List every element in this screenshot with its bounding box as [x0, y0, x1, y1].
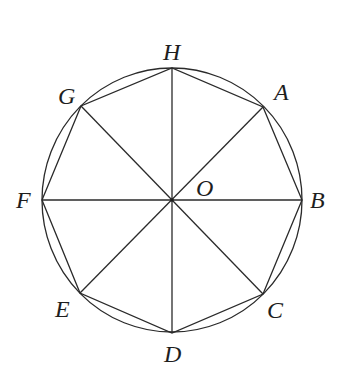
vertex-labels: ABCDEFGH — [15, 39, 325, 367]
center-label-o: O — [196, 175, 213, 201]
vertex-label-c: C — [267, 297, 284, 323]
vertex-label-b: B — [310, 187, 325, 213]
vertex-label-f: F — [15, 187, 31, 213]
inscribed-octagon-diagram: ABCDEFGH O — [0, 0, 350, 388]
vertex-label-d: D — [163, 341, 181, 367]
vertex-label-g: G — [58, 83, 75, 109]
vertex-label-e: E — [54, 296, 70, 322]
vertex-label-a: A — [272, 79, 289, 105]
vertex-label-h: H — [162, 39, 182, 65]
center-point-o — [170, 198, 174, 202]
